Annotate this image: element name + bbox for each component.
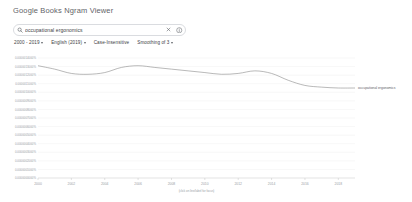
series-label[interactable]: occupational ergonomics [358, 86, 396, 90]
y-axis-tick-label: 0.0000005000% [15, 133, 36, 137]
x-axis-tick-label: 2008 [168, 182, 176, 186]
y-axis-tick-label: 0.0000010000% [15, 90, 36, 94]
filter-chip-case-insensitive[interactable]: Case-Insensitive [94, 40, 130, 45]
y-axis-tick-label: 0.0000004000% [15, 142, 36, 146]
chart-canvas: 0.0000014000%0.0000013000%0.0000012000%0… [0, 50, 412, 202]
y-axis-tick-label: 0.0000013000% [15, 65, 36, 69]
filter-chip-corpus[interactable]: English (2019) [51, 40, 86, 45]
y-axis-tick-label: 0.0000014000% [15, 56, 36, 60]
ngram-chart[interactable]: 0.0000014000%0.0000013000%0.0000012000%0… [0, 50, 412, 202]
chevron-down-icon [41, 42, 43, 44]
y-axis-tick-label: 0.0000007000% [15, 116, 36, 120]
x-axis-tick-label: 2012 [234, 182, 242, 186]
ngram-viewer-page: Google Books Ngram Viewer 2000 - 2019 [0, 0, 412, 202]
x-axis-tick-label: 2014 [268, 182, 276, 186]
filter-chip-label: Case-Insensitive [94, 40, 130, 45]
filter-chip-smoothing[interactable]: Smoothing of 3 [137, 40, 173, 45]
filter-chip-label: English (2019) [51, 40, 82, 45]
x-axis-tick-label: 2002 [68, 182, 76, 186]
page-title: Google Books Ngram Viewer [13, 6, 113, 15]
filter-chip-row: 2000 - 2019 English (2019) Case-Insensit… [14, 40, 173, 45]
y-axis-tick-label: 0.0000003000% [15, 150, 36, 154]
x-axis-tick-label: 2000 [34, 182, 42, 186]
search-bar[interactable] [13, 24, 186, 37]
filter-chip-year-range[interactable]: 2000 - 2019 [14, 40, 43, 45]
filter-chip-label: Smoothing of 3 [137, 40, 169, 45]
y-axis-tick-label: 0.0000012000% [15, 73, 36, 77]
info-icon[interactable] [174, 25, 185, 36]
search-icon [14, 25, 25, 36]
x-axis-tick-label: 2010 [201, 182, 209, 186]
chevron-down-icon [84, 42, 86, 44]
x-axis-tick-label: 2006 [134, 182, 142, 186]
close-icon[interactable] [163, 25, 174, 36]
y-axis-tick-label: 0.0000008000% [15, 108, 36, 112]
y-axis-tick-label: 0.0000006000% [15, 125, 36, 129]
series-line[interactable] [38, 66, 355, 88]
y-axis-tick-label: 0.0000002000% [15, 159, 36, 163]
y-axis-tick-label: 0.0000009000% [15, 99, 36, 103]
x-axis-tick-label: 2016 [301, 182, 309, 186]
y-axis-tick-label: 0.0000001000% [15, 168, 36, 172]
search-input[interactable] [25, 25, 163, 36]
filter-chip-label: 2000 - 2019 [14, 40, 40, 45]
y-axis-tick-label: 0.0000011000% [15, 82, 36, 86]
x-axis-tick-label: 2004 [101, 182, 109, 186]
chevron-down-icon [171, 42, 173, 44]
x-axis-tick-label: 2018 [335, 182, 343, 186]
x-axis-title: (click on line/label for focus) [179, 189, 215, 193]
y-axis-tick-label: 0.0000000000% [15, 176, 36, 180]
